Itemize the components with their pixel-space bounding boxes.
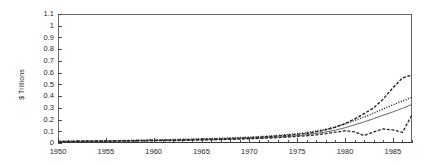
- x-tick-mark: [412, 140, 413, 143]
- x-tick-label: 1955: [97, 143, 114, 156]
- y-tick-label: 1.1: [44, 10, 58, 18]
- y-tick-label: 0.8: [44, 45, 58, 53]
- plot-area: 1.110.90.80.70.60.50.40.30.20.10 1950195…: [58, 14, 412, 143]
- y-axis-title-text: $ Trillions: [18, 69, 25, 100]
- y-tick-label: 0.9: [44, 34, 58, 42]
- y-tick-label: 0.4: [44, 92, 58, 100]
- series-layer: [58, 14, 412, 143]
- x-tick-label: 1975: [289, 143, 306, 156]
- x-tick-label: 1960: [145, 143, 162, 156]
- series-dashed-upper: [58, 75, 412, 142]
- y-tick-label: 0.1: [44, 128, 58, 136]
- y-tick-label: 0.3: [44, 104, 58, 112]
- series-solid-thin: [58, 104, 412, 141]
- y-tick-label: 0.2: [44, 116, 58, 124]
- x-tick-label: 1970: [241, 143, 258, 156]
- series-dotted: [58, 97, 412, 141]
- chart-figure: $ Trillions 1.110.90.80.70.60.50.40.30.2…: [0, 0, 433, 165]
- y-tick-label: 1: [50, 22, 58, 30]
- y-tick-label: 0.5: [44, 81, 58, 89]
- y-tick-label: 0.6: [44, 69, 58, 77]
- y-tick-label: 0.7: [44, 57, 58, 65]
- x-tick-label: 1985: [385, 143, 402, 156]
- x-tick-label: 1950: [50, 143, 67, 156]
- x-tick-label: 1965: [193, 143, 210, 156]
- y-axis-title: $ Trillions: [14, 46, 28, 122]
- x-tick-label: 1980: [337, 143, 354, 156]
